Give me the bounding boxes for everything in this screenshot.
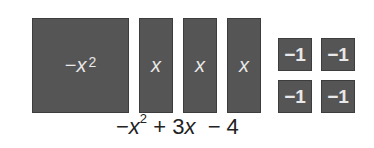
expr-term2: + 3	[147, 114, 184, 139]
negative-unit-tile: −1	[321, 38, 355, 71]
negative-unit-tile: −1	[278, 80, 312, 113]
tile-sign: −	[65, 54, 77, 77]
expr-var: x	[129, 114, 140, 139]
x-tile: x	[227, 18, 261, 113]
unit-tile-label: −1	[327, 86, 349, 108]
expr-term3: − 4	[195, 114, 238, 139]
algebra-tiles-diagram: −x2 x x x −1 −1 −1 −1 −x2 + 3x − 4	[0, 0, 374, 148]
unit-tile-label: −1	[284, 44, 306, 66]
x-tile-label: x	[151, 54, 161, 77]
polynomial-expression: −x2 + 3x − 4	[116, 114, 239, 140]
negative-unit-tile: −1	[321, 80, 355, 113]
expr-sign: −	[116, 114, 129, 139]
expr-exponent: 2	[140, 111, 147, 126]
x-tile-label: x	[239, 54, 249, 77]
unit-tile-label: −1	[327, 44, 349, 66]
tile-exponent: 2	[88, 54, 96, 70]
negative-unit-tile: −1	[278, 38, 312, 71]
unit-tile-label: −1	[284, 86, 306, 108]
x-tile: x	[183, 18, 217, 113]
tile-var: x	[76, 54, 86, 77]
negative-x-squared-tile: −x2	[32, 18, 129, 113]
x-tile: x	[139, 18, 173, 113]
expr-var: x	[184, 114, 195, 139]
x-tile-label: x	[195, 54, 205, 77]
